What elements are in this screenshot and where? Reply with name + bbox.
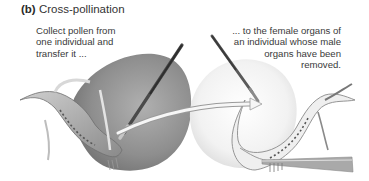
donor-flower: [20, 45, 191, 171]
removed-stamens: [262, 157, 353, 172]
recipient-flower: [190, 36, 355, 170]
illustration: [0, 0, 369, 181]
